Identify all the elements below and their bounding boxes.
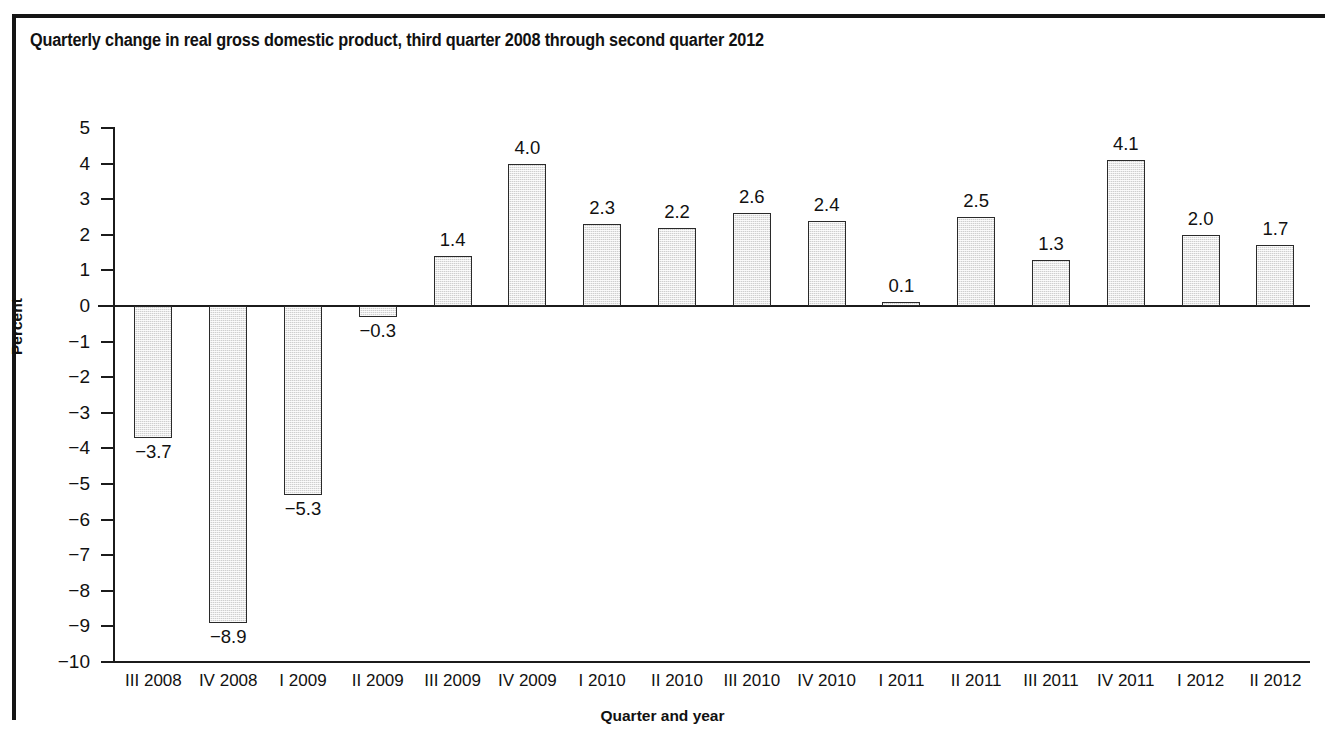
bar-value-label: 2.4 — [779, 196, 874, 215]
y-axis-tick-label: −1 — [28, 332, 90, 351]
y-axis-tick-label: −4 — [28, 438, 90, 457]
y-axis-tick — [101, 519, 114, 521]
y-axis-tick — [101, 341, 114, 343]
y-axis-tick-label: −2 — [28, 367, 90, 386]
bar[interactable] — [733, 213, 771, 306]
y-axis-tick — [101, 483, 114, 485]
bar-value-label: −0.3 — [330, 322, 425, 341]
bar[interactable] — [134, 306, 172, 438]
y-axis-tick — [101, 163, 114, 165]
y-axis-tick-label: 2 — [28, 225, 90, 244]
y-axis-tick-label: −8 — [28, 581, 90, 600]
bar-value-label: 1.4 — [405, 231, 500, 250]
y-axis-tick — [98, 305, 114, 307]
bar-value-label: −3.7 — [106, 443, 201, 462]
bar-value-label: 4.1 — [1078, 135, 1173, 154]
y-axis-tick — [101, 554, 114, 556]
y-axis-tick-label: −7 — [28, 545, 90, 564]
y-axis-tick-label: −10 — [28, 652, 90, 671]
bar[interactable] — [1032, 260, 1070, 306]
y-axis-tick — [101, 376, 114, 378]
bar[interactable] — [1256, 245, 1294, 306]
bar[interactable] — [508, 164, 546, 306]
y-axis-tick — [101, 234, 114, 236]
bar[interactable] — [434, 256, 472, 306]
x-axis-title: Quarter and year — [0, 707, 1325, 725]
bar-value-label: 1.7 — [1228, 220, 1323, 239]
bar-value-label: 2.5 — [929, 192, 1024, 211]
bar[interactable] — [658, 228, 696, 306]
bar-value-label: 4.0 — [480, 139, 575, 158]
bar-value-label: −5.3 — [256, 500, 351, 519]
plot-area: 543210−1−2−3−4−5−6−7−8−9−10−3.7III 2008−… — [0, 0, 1325, 738]
y-axis-tick — [101, 127, 114, 129]
y-axis-tick-label: 3 — [28, 189, 90, 208]
y-axis-tick — [101, 412, 114, 414]
y-axis-line — [113, 127, 115, 663]
bar[interactable] — [583, 224, 621, 306]
y-axis-tick — [101, 198, 114, 200]
y-axis-tick-label: −5 — [28, 474, 90, 493]
y-axis-tick — [101, 661, 114, 663]
y-axis-tick — [101, 269, 114, 271]
bar[interactable] — [1182, 235, 1220, 306]
y-axis-tick-label: −6 — [28, 510, 90, 529]
bar-value-label: −8.9 — [181, 628, 276, 647]
y-axis-tick-label: −9 — [28, 616, 90, 635]
bar-value-label: 0.1 — [854, 277, 949, 296]
y-axis-tick — [101, 625, 114, 627]
bar-value-label: 1.3 — [1004, 235, 1099, 254]
y-axis-tick-label: 5 — [28, 118, 90, 137]
x-axis-line — [113, 661, 1310, 663]
y-axis-tick-label: 1 — [28, 260, 90, 279]
chart-figure: Quarterly change in real gross domestic … — [0, 0, 1325, 738]
y-axis-tick-label: 4 — [28, 154, 90, 173]
bar[interactable] — [284, 306, 322, 495]
bar[interactable] — [957, 217, 995, 306]
y-axis-tick-label: 0 — [28, 296, 90, 315]
bar[interactable] — [209, 306, 247, 623]
y-axis-tick-label: −3 — [28, 403, 90, 422]
bar[interactable] — [359, 306, 397, 317]
bar[interactable] — [882, 302, 920, 306]
y-axis-title: Percent — [8, 298, 26, 355]
y-axis-tick — [101, 590, 114, 592]
bar[interactable] — [1107, 160, 1145, 306]
bar[interactable] — [808, 221, 846, 306]
x-axis-category-label: II 2012 — [1228, 672, 1323, 689]
